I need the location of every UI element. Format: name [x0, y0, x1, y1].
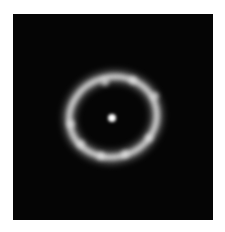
- astronomical-image: [13, 14, 213, 220]
- central-galaxy: [108, 114, 116, 122]
- einstein-ring-image: [13, 14, 213, 220]
